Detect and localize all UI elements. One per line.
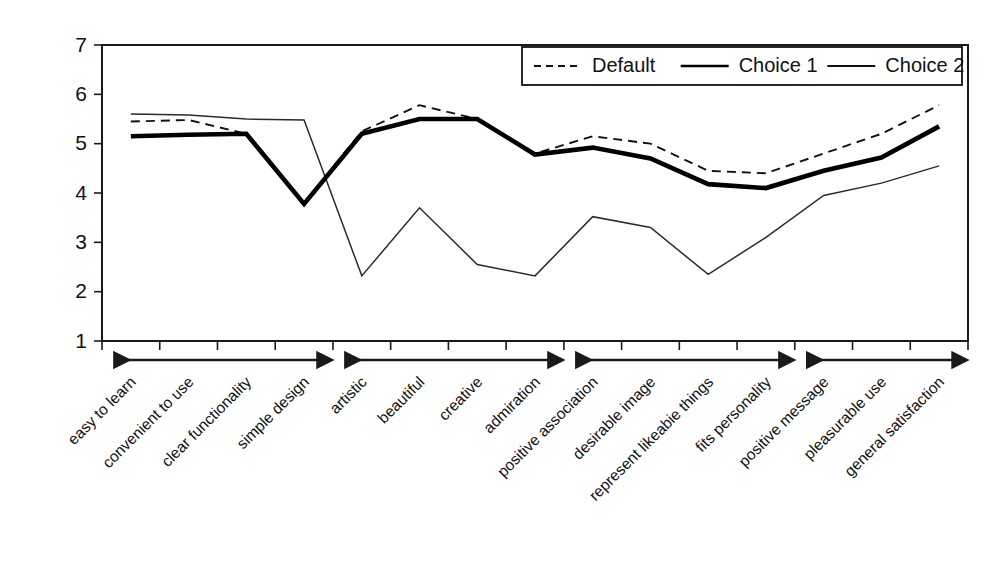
y-tick-label-4: 4 <box>75 181 87 204</box>
y-tick-label-6: 6 <box>75 82 87 105</box>
legend-label-choice-2: Choice 2 <box>885 54 964 76</box>
y-tick-label-1: 1 <box>75 329 87 352</box>
y-tick-label-7: 7 <box>75 33 87 56</box>
y-tick-label-3: 3 <box>75 230 87 253</box>
chart-legend: DefaultChoice 1Choice 2 <box>522 47 964 85</box>
y-tick-label-5: 5 <box>75 131 87 154</box>
chart-container: 1234567 easy to learnconvenient to usecl… <box>0 0 1006 563</box>
y-tick-label-2: 2 <box>75 279 87 302</box>
legend-label-default: Default <box>592 54 656 76</box>
line-chart: 1234567 easy to learnconvenient to usecl… <box>0 0 1006 563</box>
legend-label-choice-1: Choice 1 <box>739 54 818 76</box>
